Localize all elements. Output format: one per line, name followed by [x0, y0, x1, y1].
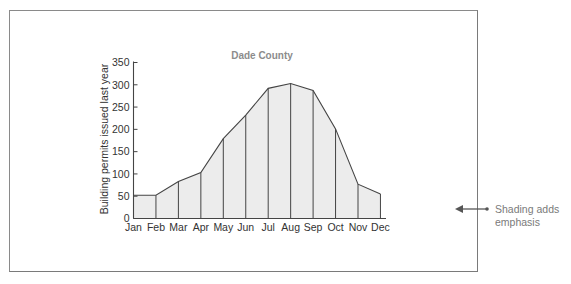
- y-tick-label: 250: [112, 101, 130, 113]
- y-tick-label: 100: [112, 168, 130, 180]
- y-tick-label: 150: [112, 145, 130, 157]
- y-tick-label: 300: [112, 79, 130, 91]
- area-chart: Dade County 050100150200250300350 JanFeb…: [0, 0, 571, 284]
- annotation-dot-icon: [485, 207, 489, 211]
- x-tick-label: Oct: [327, 221, 343, 233]
- annotation-text-line2: emphasis: [495, 216, 540, 228]
- x-tick-label: Jan: [125, 221, 142, 233]
- chart-title: Dade County: [231, 50, 293, 61]
- x-tick-label: Dec: [371, 221, 390, 233]
- x-tick-label: Jul: [261, 221, 274, 233]
- x-tick-label: Mar: [169, 221, 188, 233]
- arrow-left-icon: [455, 205, 463, 213]
- x-tick-label: Nov: [349, 221, 368, 233]
- y-tick-label: 350: [112, 56, 130, 68]
- x-tick-label: Aug: [281, 221, 300, 233]
- x-tick-label: May: [213, 221, 234, 233]
- y-axis-label: Building permits issued last year: [98, 63, 110, 214]
- y-tick-label: 50: [118, 190, 130, 202]
- x-axis-labels: JanFebMarAprMayJunJulAugSepOctNovDec: [125, 221, 390, 233]
- x-tick-label: Jun: [237, 221, 254, 233]
- x-tick-label: Apr: [193, 221, 210, 233]
- shaded-area: [134, 83, 381, 218]
- x-tick-label: Sep: [304, 221, 323, 233]
- annotation-text-line1: Shading adds: [495, 203, 559, 215]
- y-tick-label: 200: [112, 123, 130, 135]
- x-tick-label: Feb: [147, 221, 165, 233]
- annotation: Shading adds emphasis: [455, 203, 559, 228]
